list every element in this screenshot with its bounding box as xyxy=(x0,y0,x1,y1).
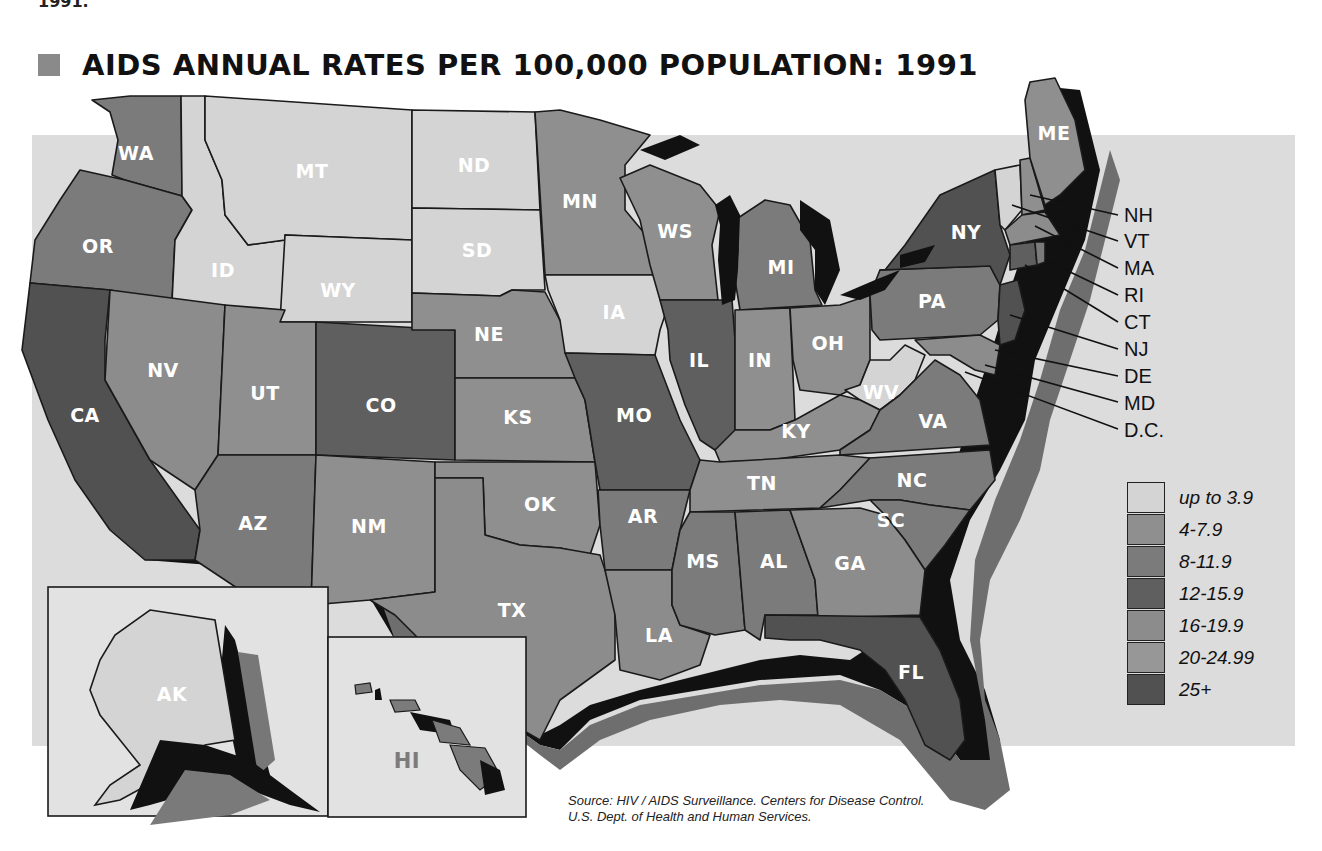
hawaii-inset xyxy=(328,637,526,817)
legend-item: 20-24.99 xyxy=(1127,642,1254,674)
label-MS: MS xyxy=(686,550,720,572)
legend-swatch-3 xyxy=(1127,578,1165,609)
label-TN: TN xyxy=(747,472,777,494)
label-VA: VA xyxy=(918,410,947,432)
legend-item: 12-15.9 xyxy=(1127,578,1254,610)
label-IA: IA xyxy=(603,301,626,323)
label-ID: ID xyxy=(211,259,235,281)
legend-item: up to 3.9 xyxy=(1127,482,1254,514)
legend-swatch-1 xyxy=(1127,514,1165,545)
callout-MD: MD xyxy=(1124,392,1155,414)
label-WS: WS xyxy=(657,220,693,242)
state-MS[interactable] xyxy=(672,512,745,635)
label-WY: WY xyxy=(320,279,356,301)
us-map: WA OR CA ID MT WY NV UT CO AZ NM ND SD N… xyxy=(0,0,1322,851)
label-AL: AL xyxy=(760,550,788,572)
legend-item: 8-11.9 xyxy=(1127,546,1254,578)
label-CO: CO xyxy=(365,394,396,416)
label-UT: UT xyxy=(250,382,279,404)
callout-RI: RI xyxy=(1124,284,1144,306)
callout-NH: NH xyxy=(1124,204,1153,226)
label-NV: NV xyxy=(147,359,179,381)
label-OK: OK xyxy=(524,493,557,515)
legend-label: 12-15.9 xyxy=(1179,583,1243,605)
legend-item: 4-7.9 xyxy=(1127,514,1254,546)
callout-DE: DE xyxy=(1124,365,1152,387)
label-OR: OR xyxy=(82,235,114,257)
legend-swatch-0 xyxy=(1127,482,1165,513)
label-GA: GA xyxy=(834,552,865,574)
legend: up to 3.9 4-7.9 8-11.9 12-15.9 16-19.9 2… xyxy=(1127,482,1254,706)
label-WA: WA xyxy=(118,142,154,164)
callout-NJ: NJ xyxy=(1124,338,1148,360)
legend-label: 20-24.99 xyxy=(1179,647,1254,669)
label-MT: MT xyxy=(296,160,329,182)
source-line-2: U.S. Dept. of Health and Human Services. xyxy=(568,809,924,825)
label-NY: NY xyxy=(951,221,982,243)
state-NY[interactable] xyxy=(880,170,1010,285)
legend-label: up to 3.9 xyxy=(1179,487,1253,509)
label-TX: TX xyxy=(498,599,527,621)
label-KS: KS xyxy=(503,406,532,428)
legend-swatch-2 xyxy=(1127,546,1165,577)
label-IN: IN xyxy=(748,349,772,371)
label-SC: SC xyxy=(877,509,906,531)
label-WV: WV xyxy=(863,381,900,403)
legend-swatch-6 xyxy=(1127,674,1165,705)
state-UT[interactable] xyxy=(218,305,316,455)
label-PA: PA xyxy=(918,290,946,312)
callout-labels: NH VT MA RI CT NJ DE MD D.C. xyxy=(1124,204,1164,441)
label-ND: ND xyxy=(458,154,491,176)
legend-swatch-4 xyxy=(1127,610,1165,641)
alaska-inset xyxy=(48,587,328,825)
label-FL: FL xyxy=(898,661,924,683)
legend-label: 16-19.9 xyxy=(1179,615,1243,637)
label-LA: LA xyxy=(645,624,673,646)
label-ME: ME xyxy=(1038,122,1071,144)
label-CA: CA xyxy=(70,404,100,426)
label-MO: MO xyxy=(616,404,652,426)
label-AR: AR xyxy=(628,505,658,527)
legend-item: 16-19.9 xyxy=(1127,610,1254,642)
label-NM: NM xyxy=(351,515,387,537)
state-CO[interactable] xyxy=(316,322,455,460)
legend-swatch-5 xyxy=(1127,642,1165,673)
legend-label: 8-11.9 xyxy=(1179,551,1231,573)
source-note: Source: HIV / AIDS Surveillance. Centers… xyxy=(568,793,924,825)
label-HI: HI xyxy=(394,749,420,773)
callout-DC: D.C. xyxy=(1124,419,1164,441)
label-IL: IL xyxy=(689,349,709,371)
state-CT[interactable] xyxy=(1010,242,1037,270)
legend-item: 25+ xyxy=(1127,674,1254,706)
label-NE: NE xyxy=(474,323,504,345)
label-OH: OH xyxy=(811,332,844,354)
label-SD: SD xyxy=(462,239,492,261)
legend-label: 25+ xyxy=(1179,679,1211,701)
callout-MA: MA xyxy=(1124,257,1155,279)
state-RI[interactable] xyxy=(1035,242,1045,265)
label-NC: NC xyxy=(897,469,928,491)
label-MI: MI xyxy=(768,256,795,278)
label-AK: AK xyxy=(157,683,188,705)
source-line-1: Source: HIV / AIDS Surveillance. Centers… xyxy=(568,793,924,809)
callout-CT: CT xyxy=(1124,311,1151,333)
label-MN: MN xyxy=(562,190,598,212)
label-AZ: AZ xyxy=(238,512,267,534)
label-KY: KY xyxy=(781,420,810,442)
legend-label: 4-7.9 xyxy=(1179,519,1222,541)
callout-VT: VT xyxy=(1124,230,1150,252)
